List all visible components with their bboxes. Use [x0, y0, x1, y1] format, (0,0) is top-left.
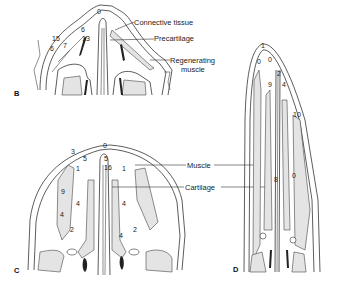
label-d-0b: 0: [268, 56, 272, 63]
label-muscle-c: Muscle: [187, 161, 211, 170]
label-c-16: 16: [104, 164, 112, 171]
label-c-9: 9: [61, 188, 65, 195]
label-d-8: 8: [274, 176, 278, 183]
label-d-1: 1: [261, 42, 265, 49]
panel-letter-c: C: [14, 266, 20, 275]
label-regenerating: Regenerating: [170, 56, 215, 65]
label-b-13: 13: [82, 35, 90, 42]
panel-letter-d: D: [233, 265, 239, 274]
label-c-3: 3: [71, 148, 75, 155]
label-c-2b: 2: [133, 226, 137, 233]
label-c-4a: 4: [60, 211, 64, 218]
label-d-9: 9: [268, 81, 272, 88]
panel-d: 1 0 0 2 9 4 10 8 0 D: [233, 42, 320, 274]
label-d-0a: 0: [257, 58, 261, 65]
panel-b: 0 6 13 15 6 7 Connective tissue Precarti…: [14, 5, 215, 98]
label-c-2a: 2: [70, 226, 74, 233]
label-c-5b: 5: [104, 155, 108, 162]
label-c-4c: 4: [122, 200, 126, 207]
label-c-1b: 1: [122, 165, 126, 172]
label-d-10: 10: [293, 111, 301, 118]
label-b-6a: 6: [81, 26, 85, 33]
label-precartilage: Precartilage: [154, 34, 194, 43]
label-d-4: 4: [282, 81, 286, 88]
label-c-0: 0: [103, 142, 107, 149]
label-connective-tissue: Connective tissue: [134, 18, 193, 27]
label-b-15: 15: [52, 35, 60, 42]
label-c-4b: 4: [76, 200, 80, 207]
label-c-4d: 4: [119, 232, 123, 239]
label-d-0c: 0: [292, 172, 296, 179]
panel-letter-b: B: [14, 89, 20, 98]
label-muscle-b: muscle: [181, 65, 205, 74]
label-c-1a: 1: [76, 165, 80, 172]
panel-c: 3 5 0 5 16 1 1 9 4 4 4 2 2 4 Muscle Cart…: [14, 142, 270, 275]
label-cartilage: Cartilage: [185, 183, 215, 192]
label-d-2: 2: [277, 70, 281, 77]
label-b-6b: 6: [50, 45, 54, 52]
limb-regeneration-diagram: 0 6 13 15 6 7 Connective tissue Precarti…: [0, 0, 337, 289]
label-c-5a: 5: [83, 155, 87, 162]
label-b-0: 0: [97, 8, 101, 15]
label-b-7: 7: [63, 42, 67, 49]
